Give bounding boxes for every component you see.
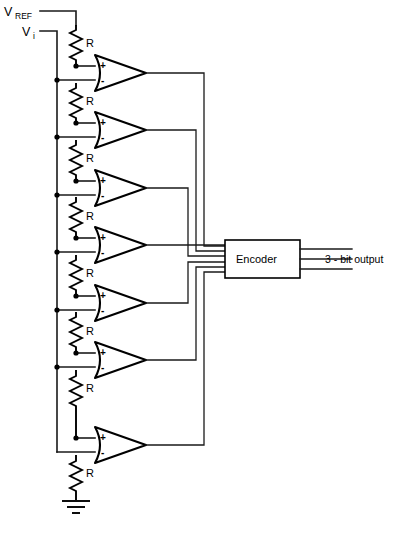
comparator-1[interactable]: + - (95, 55, 146, 91)
comparator-4-minus: - (101, 247, 104, 258)
encoder-label: Encoder (236, 253, 277, 265)
resistor-3-label: R (86, 152, 94, 164)
comparator-5-plus: + (100, 290, 106, 301)
output-wire-1 (146, 73, 225, 246)
vi-terminal: V i (22, 25, 57, 452)
encoder-output-label: 3 - bit output (325, 253, 383, 265)
resistor-3: R (70, 140, 94, 181)
comparator-output-wires (146, 73, 225, 445)
resistor-2: R (70, 83, 94, 123)
output-wire-2 (146, 130, 225, 251)
comparator-7-minus: - (101, 447, 104, 458)
resistor-ladder: R R R R R R R (70, 25, 94, 500)
comparator-3-plus: + (100, 175, 106, 186)
resistor-6-label: R (86, 325, 94, 337)
comparator-1-minus: - (101, 75, 104, 86)
comparator-7-plus: + (100, 432, 106, 443)
comparator-4[interactable]: + - (95, 227, 146, 263)
resistor-4-label: R (86, 210, 94, 222)
resistor-1: R (70, 25, 94, 66)
output-wire-6 (146, 267, 225, 360)
comparator-2[interactable]: + - (95, 112, 146, 148)
resistor-5: R (70, 255, 94, 296)
comparator-3-minus: - (101, 190, 104, 201)
ground-symbol (62, 501, 90, 513)
comparator-5[interactable]: + - (95, 285, 146, 321)
comparator-5-minus: - (101, 305, 104, 316)
output-wire-5 (146, 262, 225, 303)
vref-sublabel: REF (15, 11, 32, 21)
output-wire-7 (146, 272, 225, 445)
vref-label: V (4, 5, 13, 19)
vi-bus-wire (40, 31, 57, 452)
comparator-1-plus: + (100, 60, 106, 71)
vi-label: V (22, 25, 31, 39)
comparators: + - + - + - + - + - + - (95, 55, 146, 463)
resistor-8-label: R (86, 467, 94, 479)
vi-sublabel: i (33, 31, 35, 41)
vref-wire (40, 11, 76, 25)
resistor-8: R (70, 455, 94, 500)
resistor-6: R (70, 312, 94, 353)
comparator-6[interactable]: + - (95, 342, 146, 378)
flash-adc-diagram: V REF V i R R R R R (0, 0, 397, 533)
resistor-5-label: R (86, 267, 94, 279)
encoder-block[interactable]: Encoder (225, 240, 300, 278)
encoder-output-wires: 3 - bit output (300, 249, 383, 269)
vref-terminal: V REF (4, 5, 76, 25)
resistor-4: R (70, 197, 94, 238)
resistor-2-label: R (86, 95, 94, 107)
comparator-6-plus: + (100, 347, 106, 358)
comparator-2-plus: + (100, 117, 106, 128)
comparator-4-plus: + (100, 232, 106, 243)
comparator-2-minus: - (101, 132, 104, 143)
resistor-1-label: R (86, 37, 94, 49)
resistor-7-label: R (86, 382, 94, 394)
resistor-7: R (70, 370, 94, 438)
comparator-7[interactable]: + - (95, 427, 146, 463)
comparator-3[interactable]: + - (95, 170, 146, 206)
comparator-6-minus: - (101, 362, 104, 373)
